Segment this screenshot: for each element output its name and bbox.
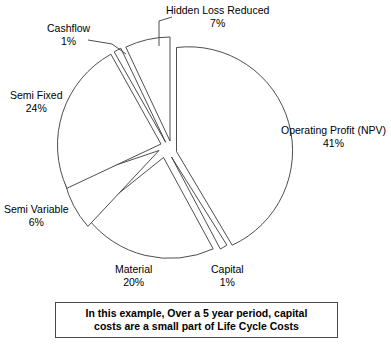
pie-label-material-name: Material — [115, 263, 152, 276]
pie-label-semi-fixed-name: Semi Fixed — [10, 89, 63, 102]
pie-label-hidden-loss-reduced: Hidden Loss Reduced 7% — [166, 4, 269, 29]
pie-label-cashflow-name: Cashflow — [47, 22, 90, 35]
pie-label-operating-profit-value: 41% — [281, 137, 386, 150]
pie-label-cashflow: Cashflow 1% — [47, 22, 90, 47]
pie-label-semi-fixed-value: 24% — [10, 102, 63, 115]
pie-chart-figure: Hidden Loss Reduced 7% Cashflow 1% Semi … — [0, 0, 391, 348]
pie-label-hidden-loss-reduced-value: 7% — [166, 17, 269, 30]
pie-label-capital-value: 1% — [211, 276, 244, 289]
caption-box: In this example, Over a 5 year period, c… — [55, 302, 338, 338]
pie-label-operating-profit: Operating Profit (NPV) 41% — [281, 124, 386, 149]
caption-text: In this example, Over a 5 year period, c… — [80, 307, 314, 333]
pie-chart-graphic — [0, 0, 391, 348]
pie-label-semi-variable-name: Semi Variable — [4, 203, 69, 216]
pie-label-material: Material 20% — [115, 263, 152, 288]
pie-label-material-value: 20% — [115, 276, 152, 289]
pie-label-hidden-loss-reduced-name: Hidden Loss Reduced — [166, 4, 269, 17]
pie-label-semi-fixed: Semi Fixed 24% — [10, 89, 63, 114]
pie-label-semi-variable-value: 6% — [4, 216, 69, 229]
pie-label-cashflow-value: 1% — [47, 35, 90, 48]
pie-label-semi-variable: Semi Variable 6% — [4, 203, 69, 228]
pie-label-operating-profit-name: Operating Profit (NPV) — [281, 124, 386, 137]
pie-label-capital-name: Capital — [211, 263, 244, 276]
pie-label-capital: Capital 1% — [211, 263, 244, 288]
